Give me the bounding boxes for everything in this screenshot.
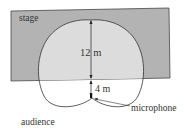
- microphone-leader-line: [95, 99, 130, 106]
- audience-label: audience: [21, 118, 55, 128]
- distance-12m-label: 12 m: [80, 48, 101, 59]
- distance-4m-label: 4 m: [95, 84, 110, 94]
- microphone-icon: [90, 94, 92, 98]
- microphone-label: microphone: [131, 104, 176, 114]
- stage-label: stage: [19, 14, 39, 24]
- arrowhead-4m-top: [90, 80, 93, 84]
